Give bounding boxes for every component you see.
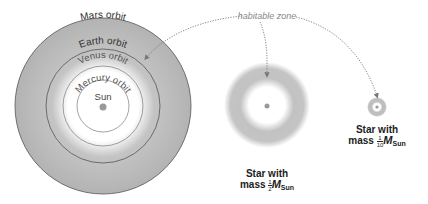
star-tenth-mass — [367, 97, 387, 117]
mass-word: mass — [240, 179, 266, 190]
star-half-mass — [224, 62, 310, 148]
label-line1: Star with — [222, 168, 312, 179]
habitable-zone-diagram: Mars orbit Earth orbit Venus orbit Mercu… — [0, 0, 428, 204]
mass-symbol: M — [272, 178, 281, 190]
sun-label: Sun — [95, 91, 112, 102]
star-half-mass-label: Star with mass 12MSun — [222, 168, 312, 193]
callout-arrow-tenth — [296, 17, 377, 96]
sun-icon — [100, 104, 107, 111]
star-tenth-mass-label: Star with mass 110MSun — [332, 124, 422, 149]
mass-subscript: Sun — [281, 184, 294, 191]
habitable-zone-label: habitable zone — [238, 11, 297, 21]
mass-subscript: Sun — [392, 140, 405, 147]
label-line2: mass 12MSun — [222, 179, 312, 193]
mass-word: mass — [348, 135, 374, 146]
star-icon-small — [375, 105, 378, 108]
label-line1: Star with — [332, 124, 422, 135]
label-line2: mass 110MSun — [332, 135, 422, 149]
solar-system: Mars orbit Earth orbit Venus orbit Mercu… — [15, 9, 191, 194]
star-icon — [265, 104, 270, 109]
